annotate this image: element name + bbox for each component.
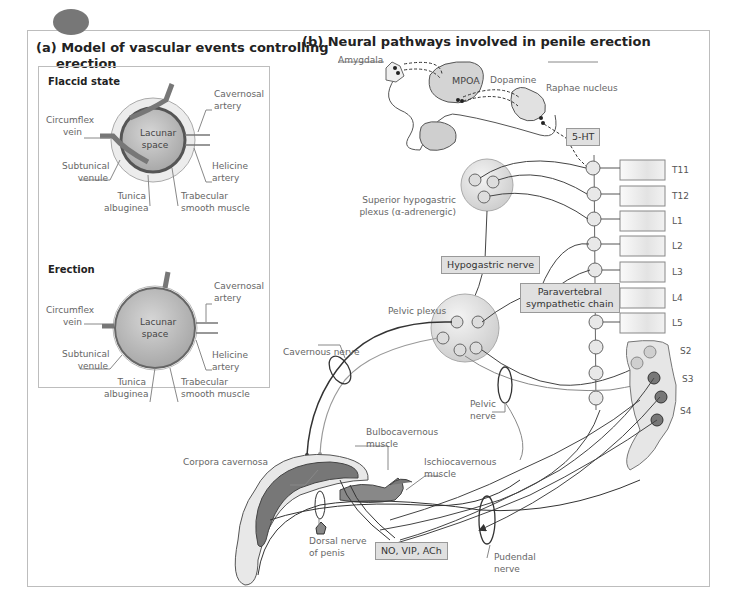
label-line: artery <box>214 100 264 112</box>
label-line: venule <box>62 172 108 184</box>
flaccid-lacunar-space-label: Lacunar space <box>140 127 170 151</box>
label-line: space <box>140 328 170 340</box>
label-line: Tunica <box>104 190 146 202</box>
label-line: venule <box>62 360 108 372</box>
label-line: sympathetic chain <box>526 298 614 310</box>
label-line: Dorsal nerve <box>309 535 367 547</box>
label-line: Circumflex <box>46 114 82 126</box>
label-line: muscle <box>424 468 496 480</box>
corpora-cavernosa-label: Corpora cavernosa <box>183 456 268 468</box>
label-line: artery <box>214 292 264 304</box>
pelvic-nerve-label: Pelvic nerve <box>470 398 492 422</box>
pudendal-nerve-path <box>380 378 660 545</box>
label-line: space <box>140 139 170 151</box>
serotonin-tag: 5-HT <box>566 128 600 146</box>
flaccid-subtunical-venule-label: Subtunical venule <box>62 160 108 184</box>
segment-t12: T12 <box>672 191 689 201</box>
label-line: Lacunar <box>140 316 170 328</box>
label-line: Ischiocavernous <box>424 456 496 468</box>
neurotransmitters-tag: NO, VIP, ACh <box>375 542 448 560</box>
label-line: albuginea <box>104 388 146 400</box>
segment-l2: L2 <box>672 241 683 251</box>
erection-cavernosal-artery-label: Cavernosal artery <box>214 280 264 304</box>
erection-lacunar-space-label: Lacunar space <box>140 316 170 340</box>
mpoa-label: MPOA <box>452 75 480 87</box>
erection-title: Erection <box>48 264 95 275</box>
label-line: Pelvic <box>470 398 492 410</box>
label-line: nerve <box>494 563 536 575</box>
pelvic-plexus-label: Pelvic plexus <box>388 305 446 317</box>
panel-b-title: (b) Neural pathways involved in penile e… <box>302 34 651 50</box>
superior-hypogastric-label: Superior hypogastric plexus (α-adrenergi… <box>356 194 456 218</box>
label-line: Bulbocavernous <box>366 426 438 438</box>
diagram-drawing <box>0 0 736 609</box>
bulbocavernous-label: Bulbocavernous muscle <box>366 426 438 450</box>
brain-structures <box>386 62 590 170</box>
label-line: Paravertebral <box>526 286 614 298</box>
ischiocavernous-label: Ischiocavernous muscle <box>424 456 496 480</box>
cavernous-nerve-label: Cavernous nerve <box>283 346 359 358</box>
label-line: Helicine <box>212 160 248 172</box>
hypogastric-nerve-tag: Hypogastric nerve <box>441 256 540 274</box>
pudendal-nerve-label: Pudendal nerve <box>494 551 536 575</box>
label-line: smooth muscle <box>181 388 250 400</box>
label-line: smooth muscle <box>181 202 250 214</box>
flaccid-circumflex-vein-label: Circumflex vein <box>46 114 82 138</box>
paravertebral-chain-tag: Paravertebral sympathetic chain <box>520 283 620 313</box>
flaccid-cavernosal-artery-label: Cavernosal artery <box>214 88 264 112</box>
flaccid-trabecular-muscle-label: Trabecular smooth muscle <box>181 190 250 214</box>
segment-s2: S2 <box>680 346 691 356</box>
label-line: Lacunar <box>140 127 170 139</box>
label-line: Trabecular <box>181 376 250 388</box>
label-line: Trabecular <box>181 190 250 202</box>
label-line: muscle <box>366 438 438 450</box>
flaccid-state-title: Flaccid state <box>48 76 120 87</box>
label-line: Helicine <box>212 349 248 361</box>
segment-l4: L4 <box>672 293 683 303</box>
label-line: vein <box>46 126 82 138</box>
label-line: artery <box>212 361 248 373</box>
label-line: artery <box>212 172 248 184</box>
raphae-nucleus-label: Raphae nucleus <box>546 82 618 94</box>
label-line: Circumflex <box>46 304 82 316</box>
label-line: nerve <box>470 410 492 422</box>
erection-subtunical-venule-label: Subtunical venule <box>62 348 108 372</box>
flaccid-tunica-albuginea-label: Tunica albuginea <box>104 190 146 214</box>
erection-tunica-albuginea-label: Tunica albuginea <box>104 376 146 400</box>
segment-s3: S3 <box>682 374 693 384</box>
erection-trabecular-muscle-label: Trabecular smooth muscle <box>181 376 250 400</box>
segment-t11: T11 <box>672 165 689 175</box>
segment-l1: L1 <box>672 216 683 226</box>
amygdala-label: Amygdala <box>338 54 383 66</box>
label-line: Subtunical <box>62 348 108 360</box>
label-line: Tunica <box>104 376 146 388</box>
label-line: albuginea <box>104 202 146 214</box>
dopamine-label: Dopamine <box>490 74 536 86</box>
label-line: of penis <box>309 547 367 559</box>
segment-s4: S4 <box>680 406 691 416</box>
flaccid-helicine-artery-label: Helicine artery <box>212 160 248 184</box>
segment-l5: L5 <box>672 318 683 328</box>
spinal-segment-boxes <box>620 160 665 333</box>
label-line: plexus (α-adrenergic) <box>356 206 456 218</box>
label-line: Cavernosal <box>214 280 264 292</box>
label-line: Cavernosal <box>214 88 264 100</box>
label-line: Pudendal <box>494 551 536 563</box>
dorsal-nerve-label: Dorsal nerve of penis <box>309 535 367 559</box>
erection-helicine-artery-label: Helicine artery <box>212 349 248 373</box>
label-line: vein <box>46 316 82 328</box>
segment-l3: L3 <box>672 267 683 277</box>
erection-circumflex-vein-label: Circumflex vein <box>46 304 82 328</box>
label-line: Subtunical <box>62 160 108 172</box>
label-line: Superior hypogastric <box>356 194 456 206</box>
